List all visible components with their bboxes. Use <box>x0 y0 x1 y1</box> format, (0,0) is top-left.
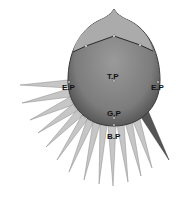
label-bp: B.P <box>107 132 121 141</box>
head-diagram: T.P E.P E.P G.P B.P <box>0 0 187 199</box>
spike <box>99 124 107 184</box>
spike <box>20 80 68 88</box>
point-marker <box>139 44 141 46</box>
label-tp: T.P <box>107 72 119 81</box>
point-marker-bp <box>113 124 115 126</box>
label-gp: G.P <box>107 109 121 118</box>
point-marker <box>85 45 87 47</box>
label-ep-left: E.P <box>62 83 76 92</box>
label-ep-right: E.P <box>151 83 165 92</box>
point-marker <box>113 35 115 37</box>
